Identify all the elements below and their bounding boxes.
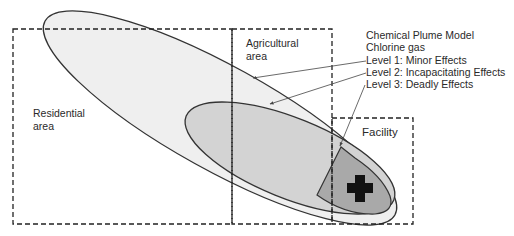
legend: Chemical Plume Model Chlorine gas Level … (366, 29, 505, 90)
legend-title: Chemical Plume Model (366, 29, 505, 41)
legend-item-level-1: Level 1: Minor Effects (366, 54, 505, 66)
agricultural-label-line2: area (246, 50, 299, 63)
agricultural-label-line1: Agricultural (246, 37, 299, 50)
level-1-arrow (253, 61, 366, 78)
level-2-arrow (270, 73, 366, 104)
residential-label-line1: Residential (33, 107, 85, 120)
legend-subtitle: Chlorine gas (366, 41, 505, 53)
residential-area-label: Residential area (33, 107, 85, 133)
facility-label-text: Facility (362, 126, 398, 139)
facility-area-label: Facility (362, 126, 398, 139)
agricultural-area-label: Agricultural area (246, 37, 299, 63)
residential-label-line2: area (33, 120, 85, 133)
legend-item-level-3: Level 3: Deadly Effects (366, 78, 505, 90)
legend-item-level-2: Level 2: Incapacitating Effects (366, 66, 505, 78)
